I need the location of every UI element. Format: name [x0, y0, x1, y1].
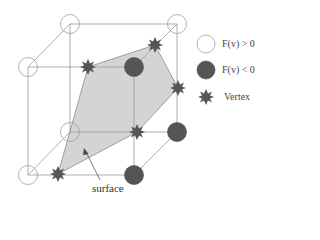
legend-positive-label: F(v) > 0: [222, 38, 255, 49]
legend-vertex-icon: [198, 89, 214, 105]
legend-negative-label: F(v) < 0: [222, 64, 255, 75]
negative-node-icon: [125, 58, 144, 77]
negative-node-icon: [125, 166, 144, 185]
legend-negative-icon: [197, 61, 215, 79]
legend-symbols: [197, 35, 215, 105]
legend-vertex-label: Vertex: [224, 91, 250, 102]
surface-polygon: [58, 45, 178, 174]
legend-positive-icon: [197, 35, 215, 53]
negative-node-icon: [168, 123, 187, 142]
surface-label: surface: [92, 182, 124, 194]
